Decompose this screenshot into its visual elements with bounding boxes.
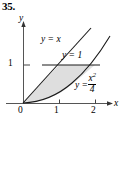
figure-container: 35. y x 1 0 1 2 y = x y = 1 y =x24 <box>0 0 125 179</box>
plot-canvas <box>0 0 125 179</box>
parabola-fraction: x24 <box>88 74 96 95</box>
parabola-exponent: 2 <box>93 71 96 78</box>
parabola-denominator: 4 <box>88 85 96 95</box>
x-axis-arrow <box>107 101 113 105</box>
y-axis-label: y <box>19 14 23 24</box>
curve-label-parabola: y =x24 <box>75 74 96 95</box>
x-tick-label-0: 0 <box>18 106 23 116</box>
x-axis-label: x <box>114 99 118 109</box>
curve-label-horizontal: y = 1 <box>62 51 82 61</box>
x-tick-label-1: 1 <box>54 106 59 116</box>
x-tick-label-2: 2 <box>91 106 96 116</box>
y-tick-label-1: 1 <box>8 59 13 69</box>
parabola-lead: y = <box>75 80 88 90</box>
curve-label-identity: y = x <box>41 35 61 45</box>
